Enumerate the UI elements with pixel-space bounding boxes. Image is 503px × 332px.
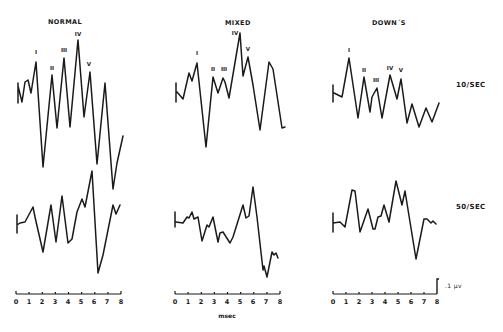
tick-label: 8 — [119, 299, 124, 306]
tick-label: 5 — [396, 299, 401, 306]
tick-label: 4 — [383, 299, 388, 306]
x-axis-downs — [333, 291, 437, 294]
scale-bar-label: .1 μv — [445, 283, 462, 289]
panel-title-downs: DOWN´S — [372, 20, 406, 27]
abr-waveform-figure: NORMAL MIXED DOWN´S I II III IV V I II I… — [0, 0, 503, 332]
row-label-10sec: 10/SEC — [456, 82, 486, 89]
peak-label-mixed-iii: III — [221, 67, 227, 73]
tick-label: 3 — [370, 299, 375, 306]
trace-normal-50sec — [17, 171, 120, 273]
tick-label: 7 — [422, 299, 427, 306]
tick-label: 7 — [264, 299, 269, 306]
trace-mixed-50sec — [175, 187, 278, 277]
tick-label: 2 — [357, 299, 362, 306]
tick-label: 6 — [251, 299, 256, 306]
tick-label: 8 — [278, 299, 283, 306]
tick-label: 7 — [105, 299, 110, 306]
tick-label: 8 — [435, 299, 440, 306]
scale-bar — [437, 279, 439, 294]
tick-label: 3 — [53, 299, 58, 306]
tick-label: 2 — [40, 299, 45, 306]
peak-label-downs-i: I — [348, 48, 350, 54]
peak-label-mixed-iv: IV — [232, 31, 238, 37]
tick-label: 2 — [199, 299, 204, 306]
row-label-50sec: 50/SEC — [456, 204, 486, 211]
tick-label: 6 — [92, 299, 97, 306]
tick-label: 1 — [344, 299, 349, 306]
peak-label-downs-iv: IV — [387, 66, 393, 72]
x-axis-unit-label: msec — [218, 313, 235, 319]
panel-title-normal: NORMAL — [48, 19, 82, 26]
peak-label-downs-v: V — [399, 68, 403, 74]
tick-label: 1 — [27, 299, 32, 306]
trace-downs-50sec — [333, 181, 436, 259]
peak-label-normal-i: I — [35, 50, 37, 56]
x-axis-mixed — [175, 291, 280, 294]
tick-label: 5 — [238, 299, 243, 306]
tick-label: 0 — [14, 299, 19, 306]
tick-label: 0 — [331, 299, 336, 306]
tick-label: 4 — [225, 299, 230, 306]
tick-label: 3 — [212, 299, 217, 306]
peak-label-downs-iii: III — [373, 78, 379, 84]
waveform-canvas — [0, 0, 503, 332]
x-axis-normal — [16, 291, 121, 294]
peak-label-mixed-v: V — [246, 47, 250, 53]
peak-label-normal-v: V — [87, 62, 91, 68]
tick-label: 4 — [66, 299, 71, 306]
peak-label-mixed-ii: II — [211, 67, 215, 73]
panel-title-mixed: MIXED — [225, 20, 251, 27]
peak-label-normal-ii: II — [50, 66, 54, 72]
trace-normal-10sec — [18, 40, 123, 189]
peak-label-downs-ii: II — [362, 68, 366, 74]
tick-label: 1 — [186, 299, 191, 306]
tick-label: 5 — [79, 299, 84, 306]
tick-label: 6 — [409, 299, 414, 306]
peak-label-normal-iv: IV — [75, 32, 81, 38]
trace-mixed-10sec — [176, 33, 285, 147]
peak-label-mixed-i: I — [196, 51, 198, 57]
tick-label: 0 — [173, 299, 178, 306]
peak-label-normal-iii: III — [61, 48, 67, 54]
